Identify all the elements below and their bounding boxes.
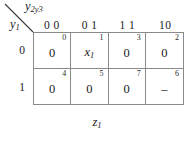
figure-caption: z1: [0, 116, 194, 130]
row-variable-sub: 1: [16, 22, 20, 32]
kmap-cell-2[interactable]: 2 0: [146, 33, 183, 69]
kmap-cell-3[interactable]: 3 0: [109, 33, 146, 69]
cell-index-0: 0: [62, 34, 66, 42]
cell-index-4: 4: [62, 70, 66, 78]
column-header-01: 0 1: [71, 18, 109, 32]
cell-index-7: 7: [137, 70, 141, 78]
kmap-cell-5[interactable]: 5 0: [71, 69, 108, 105]
cell-index-5: 5: [100, 70, 104, 78]
kmap-cell-7[interactable]: 7 0: [109, 69, 146, 105]
row-variable-label: y1: [10, 18, 20, 32]
caption-sub: 1: [97, 120, 101, 130]
cell-index-1: 1: [100, 34, 104, 42]
row-header-0: 0: [12, 32, 32, 69]
row-header-1: 1: [12, 69, 32, 106]
cell-value-0: 0: [49, 42, 55, 60]
row-header-column: 0 1: [12, 32, 32, 105]
cell-value-5: 0: [86, 78, 92, 96]
cell-index-6: 6: [175, 70, 179, 78]
kmap-cell-1[interactable]: 1 x1: [71, 33, 108, 69]
kmap-cell-6[interactable]: 6 –: [146, 69, 183, 105]
cell-value-6: –: [161, 78, 167, 96]
cell-value-7: 0: [124, 78, 130, 96]
kmap-cell-0[interactable]: 0 0: [34, 33, 71, 69]
cell-value-3: 0: [124, 42, 130, 60]
column-variable-subs: 2y3: [31, 4, 43, 14]
column-header-row: 0 0 0 1 1 1 10: [33, 18, 184, 32]
column-variable-label: y2y3: [25, 0, 43, 14]
cell-value-1-sub: 1: [90, 50, 94, 60]
cell-value-2: 0: [161, 42, 167, 60]
cell-index-3: 3: [137, 34, 141, 42]
kmap-grid: 0 0 1 x1 3 0 2 0 4 0 5 0 7 0 6 –: [33, 32, 184, 105]
column-header-11: 1 1: [109, 18, 147, 32]
cell-value-1: x1: [84, 41, 94, 60]
cell-value-4: 0: [49, 78, 55, 96]
kmap-cell-4[interactable]: 4 0: [34, 69, 71, 105]
column-header-00: 0 0: [33, 18, 71, 32]
cell-index-2: 2: [175, 34, 179, 42]
karnaugh-map-figure: y2y3 y1 0 0 0 1 1 1 10 0 1 0 0 1 x1 3 0 …: [0, 0, 194, 145]
column-header-10: 10: [146, 18, 184, 32]
